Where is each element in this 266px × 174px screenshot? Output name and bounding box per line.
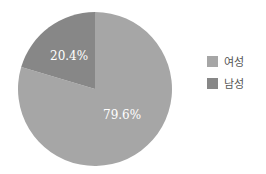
legend-swatch-female xyxy=(207,56,218,67)
legend-item-male: 남성 xyxy=(207,76,244,90)
legend-item-female: 여성 xyxy=(207,54,244,68)
legend-label-female: 여성 xyxy=(224,53,244,69)
label-male-pct: 20.4% xyxy=(50,49,88,63)
legend-label-male: 남성 xyxy=(224,75,244,91)
legend-swatch-male xyxy=(207,78,218,89)
label-female-pct: 79.6% xyxy=(103,108,141,122)
legend: 여성 남성 xyxy=(207,54,244,98)
